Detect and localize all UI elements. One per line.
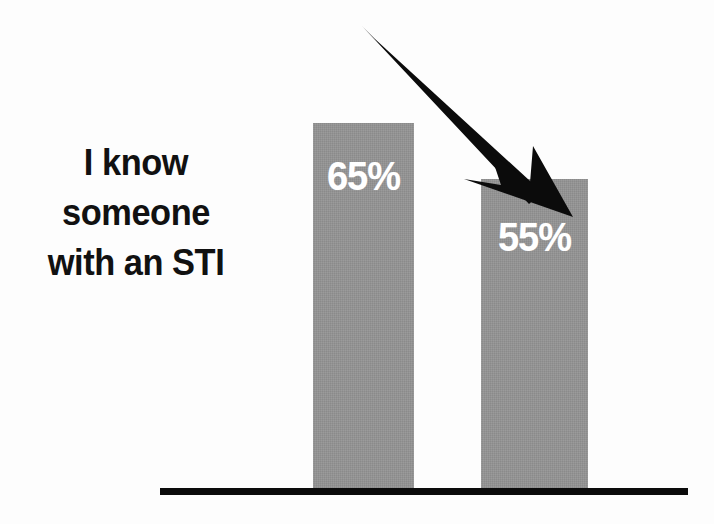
bar-before: 65% [313, 123, 414, 489]
caption-line-3: with an STI [26, 238, 245, 288]
bar-value-label-after: 55% [484, 217, 586, 257]
caption-line-1: I know [26, 138, 245, 188]
bar-chart-figure: I know someone with an STI 65% 55% [0, 0, 714, 524]
bar-after: 55% [481, 179, 588, 489]
caption-line-2: someone [26, 188, 245, 238]
chart-baseline-axis [160, 488, 688, 495]
bar-value-label-before: 65% [316, 156, 412, 196]
chart-category-caption: I know someone with an STI [26, 138, 245, 288]
